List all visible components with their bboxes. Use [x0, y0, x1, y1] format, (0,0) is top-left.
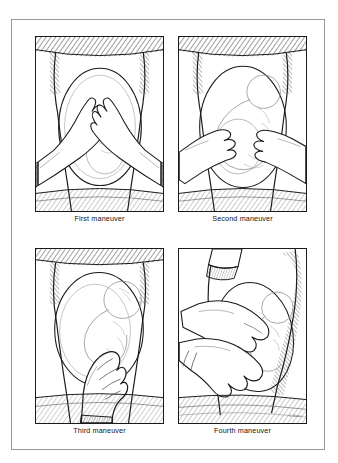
panel-second-maneuver: Second maneuver	[178, 36, 307, 224]
caption-third-maneuver: Third maneuver	[35, 426, 164, 436]
illustration-first-maneuver	[35, 36, 164, 212]
figure-frame: First maneuver	[11, 19, 325, 450]
fourth-maneuver-drawing: C. Bauer	[179, 249, 306, 423]
third-maneuver-drawing	[36, 249, 163, 423]
caption-fourth-maneuver: Fourth maneuver	[178, 426, 307, 436]
panel-third-maneuver: Third maneuver	[35, 248, 164, 436]
panel-grid: First maneuver	[35, 36, 307, 436]
illustration-fourth-maneuver: C. Bauer	[178, 248, 307, 424]
second-maneuver-drawing	[179, 37, 306, 211]
artist-signature: C. Bauer	[289, 414, 301, 418]
illustration-third-maneuver	[35, 248, 164, 424]
panel-fourth-maneuver: C. Bauer Fourth maneuver	[178, 248, 307, 436]
first-maneuver-drawing	[36, 37, 163, 211]
illustration-second-maneuver	[178, 36, 307, 212]
caption-second-maneuver: Second maneuver	[178, 214, 307, 224]
panel-first-maneuver: First maneuver	[35, 36, 164, 224]
caption-first-maneuver: First maneuver	[35, 214, 164, 224]
